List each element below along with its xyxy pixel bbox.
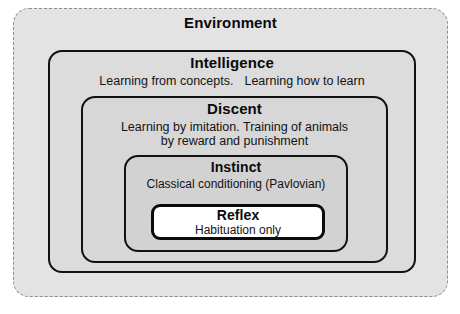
level-intelligence-description-part-2: Learning how to learn	[244, 74, 364, 88]
level-intelligence-description: Learning from concepts.Learning how to l…	[50, 72, 414, 89]
level-instinct-title: Instinct	[126, 157, 346, 176]
level-discent-title: Discent	[83, 98, 386, 118]
level-environment: Environment Intelligence Learning from c…	[13, 8, 448, 297]
level-instinct: Instinct Classical conditioning (Pavlovi…	[124, 155, 348, 252]
level-reflex: Reflex Habituation only	[151, 204, 325, 240]
level-intelligence-title: Intelligence	[50, 52, 414, 72]
level-environment-title: Environment	[14, 9, 447, 32]
level-intelligence: Intelligence Learning from concepts.Lear…	[48, 50, 416, 273]
diagram-root: Environment Intelligence Learning from c…	[0, 0, 460, 314]
level-reflex-description: Habituation only	[154, 224, 322, 238]
level-discent: Discent Learning by imitation. Training …	[81, 96, 388, 263]
level-discent-description-line-2: by reward and punishment	[83, 134, 386, 149]
level-discent-description-line-1: Learning by imitation. Training of anima…	[83, 118, 386, 135]
level-intelligence-description-part-1: Learning from concepts.	[99, 74, 233, 88]
level-reflex-title: Reflex	[154, 207, 322, 224]
level-instinct-description: Classical conditioning (Pavlovian)	[126, 176, 346, 192]
